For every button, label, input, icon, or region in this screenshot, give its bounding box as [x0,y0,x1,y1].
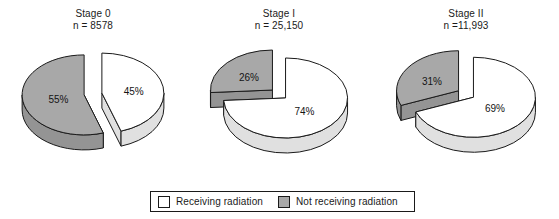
pie-chart-figure: Stage 0 n = 8578 45%55% Stage I n = 25,1… [0,0,559,219]
slice-percentage-label: 69% [485,103,505,114]
legend-swatch-not-receiving [278,196,290,208]
pie-svg: 74%26% [186,38,372,182]
panel-title: Stage I [186,8,372,20]
legend-entry-not-receiving: Not receiving radiation [278,196,398,208]
pie-chart-stage-1: 74%26% [186,38,372,182]
panel-title: Stage 0 [0,8,186,20]
pie-svg: 69%31% [373,38,559,182]
legend-swatch-receiving [158,196,170,208]
pie-chart-stage-0: 45%55% [0,38,186,182]
legend-entry-receiving: Receiving radiation [158,196,263,208]
panel-sample-size: n =11,993 [373,20,559,32]
panel-sample-size: n = 8578 [0,20,186,32]
panel-header: Stage II n =11,993 [373,8,559,32]
chart-legend: Receiving radiation Not receiving radiat… [150,191,415,212]
legend-label-not-receiving: Not receiving radiation [296,196,398,207]
pie-slice [102,53,164,146]
panel-header: Stage I n = 25,150 [186,8,372,32]
slice-percentage-label: 45% [124,86,144,97]
pie-svg: 45%55% [0,38,186,182]
slice-percentage-label: 74% [294,106,314,117]
chart-panel-stage-0: Stage 0 n = 8578 45%55% [0,0,186,182]
chart-panel-stage-2: Stage II n =11,993 69%31% [373,0,559,182]
panel-title: Stage II [373,8,559,20]
legend-label-receiving: Receiving radiation [176,196,263,207]
chart-panel-stage-1: Stage I n = 25,150 74%26% [186,0,372,182]
pie-chart-stage-2: 69%31% [373,38,559,182]
slice-percentage-label: 55% [48,94,68,105]
panel-sample-size: n = 25,150 [186,20,372,32]
slice-percentage-label: 31% [422,76,442,87]
slice-percentage-label: 26% [239,72,259,83]
panel-header: Stage 0 n = 8578 [0,8,186,32]
